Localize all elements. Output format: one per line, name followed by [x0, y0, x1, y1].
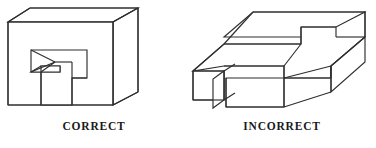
figure-comparison-page: CORRECT: [0, 0, 376, 148]
block-right-face: [113, 8, 138, 105]
correct-figure-panel: CORRECT: [0, 0, 188, 148]
incorrect-figure-panel: INCORRECT: [188, 0, 376, 148]
incorrect-figure-drawing: [188, 0, 376, 118]
correct-figure-drawing: [0, 0, 188, 118]
correct-figure-caption: CORRECT: [0, 120, 188, 132]
slab-center-front-face: [226, 78, 284, 107]
incorrect-figure-caption: INCORRECT: [188, 120, 376, 132]
edge-center-bottom-right: [284, 92, 331, 107]
